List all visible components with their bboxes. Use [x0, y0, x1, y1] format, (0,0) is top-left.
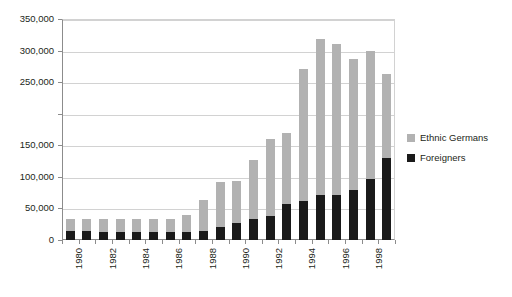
bar-group — [232, 19, 241, 240]
bar-group — [266, 19, 275, 240]
x-tick-mark — [129, 240, 130, 244]
y-tick-label: 50,000 — [25, 203, 54, 213]
bar-segment-foreigners — [199, 231, 208, 240]
bar-segment-foreigners — [116, 232, 125, 240]
bar-group — [216, 19, 225, 240]
bar-group — [149, 19, 158, 240]
bar-segment-ethnic-germans — [66, 219, 75, 232]
x-tick-mark — [362, 240, 363, 244]
x-tick-mark — [162, 240, 163, 244]
bar-segment-ethnic-germans — [249, 160, 258, 219]
x-tick-mark — [328, 240, 329, 244]
x-tick-mark — [295, 240, 296, 244]
bar-segment-foreigners — [282, 204, 291, 240]
x-tick-mark — [112, 240, 113, 244]
x-tick-mark — [95, 240, 96, 244]
x-tick-mark — [229, 240, 230, 244]
bar-segment-ethnic-germans — [182, 215, 191, 232]
x-tick-label: 1998 — [374, 248, 384, 269]
bar-group — [382, 19, 391, 240]
bar-segment-ethnic-germans — [132, 219, 141, 232]
bar-segment-foreigners — [382, 158, 391, 240]
bar-segment-ethnic-germans — [82, 219, 91, 231]
x-tick-label: 1986 — [174, 248, 184, 269]
bar-group — [299, 19, 308, 240]
bar-group — [166, 19, 175, 240]
bar-segment-ethnic-germans — [216, 182, 225, 227]
x-tick-label: 1982 — [108, 248, 118, 269]
x-tick-label: 1992 — [274, 248, 284, 269]
bar-segment-foreigners — [166, 232, 175, 240]
y-axis: 050,000100,000150,000250,000300,000350,0… — [0, 0, 62, 260]
bar-segment-foreigners — [99, 232, 108, 240]
bar-segment-ethnic-germans — [266, 139, 275, 216]
legend-item: Foreigners — [407, 152, 488, 163]
bar-segment-foreigners — [249, 219, 258, 240]
chart-legend: Ethnic GermansForeigners — [407, 132, 488, 172]
x-tick-mark — [212, 240, 213, 244]
x-tick-mark — [312, 240, 313, 244]
bar-group — [332, 19, 341, 240]
bar-group — [366, 19, 375, 240]
bar-segment-ethnic-germans — [316, 39, 325, 195]
legend-item: Ethnic Germans — [407, 132, 488, 143]
legend-swatch-foreigners — [407, 154, 415, 162]
bar-segment-foreigners — [266, 216, 275, 240]
bar-segment-foreigners — [299, 201, 308, 240]
bar-group — [199, 19, 208, 240]
x-tick-mark — [79, 240, 80, 244]
x-tick-mark — [278, 240, 279, 244]
x-tick-mark — [378, 240, 379, 244]
bar-segment-ethnic-germans — [382, 74, 391, 158]
bar-segment-ethnic-germans — [199, 200, 208, 231]
bar-segment-ethnic-germans — [332, 44, 341, 194]
bar-segment-foreigners — [366, 179, 375, 240]
x-axis: 1980198219841986198819901992199419961998 — [62, 240, 395, 297]
x-tick-label: 1980 — [74, 248, 84, 269]
x-tick-mark — [395, 240, 396, 244]
bar-segment-ethnic-germans — [149, 219, 158, 232]
y-tick-label: 150,000 — [20, 140, 54, 150]
bar-group — [349, 19, 358, 240]
bar-segment-foreigners — [149, 232, 158, 240]
bar-segment-foreigners — [182, 232, 191, 240]
y-tick-label: 250,000 — [20, 77, 54, 87]
bar-segment-foreigners — [349, 190, 358, 241]
x-tick-mark — [179, 240, 180, 244]
legend-label: Foreigners — [420, 152, 465, 163]
bar-segment-foreigners — [316, 195, 325, 240]
bar-segment-ethnic-germans — [232, 181, 241, 223]
bar-group — [116, 19, 125, 240]
bar-group — [82, 19, 91, 240]
bar-segment-ethnic-germans — [282, 133, 291, 204]
bar-group — [99, 19, 108, 240]
legend-label: Ethnic Germans — [420, 132, 488, 143]
y-tick-label: 100,000 — [20, 172, 54, 182]
x-tick-mark — [62, 240, 63, 244]
bar-segment-foreigners — [232, 223, 241, 240]
x-tick-mark — [195, 240, 196, 244]
bar-group — [132, 19, 141, 240]
bar-segment-ethnic-germans — [349, 59, 358, 189]
bar-segment-foreigners — [66, 231, 75, 240]
legend-swatch-ethnic-germans — [407, 134, 415, 142]
stacked-bar-chart: 050,000100,000150,000250,000300,000350,0… — [0, 0, 512, 297]
y-tick-label: 0 — [49, 235, 54, 245]
bars-layer — [62, 19, 395, 240]
x-tick-label: 1996 — [341, 248, 351, 269]
bar-group — [316, 19, 325, 240]
bar-segment-foreigners — [132, 232, 141, 240]
x-tick-label: 1990 — [241, 248, 251, 269]
x-tick-mark — [262, 240, 263, 244]
bar-segment-ethnic-germans — [166, 219, 175, 233]
x-tick-mark — [145, 240, 146, 244]
bar-segment-foreigners — [82, 231, 91, 240]
x-tick-mark — [245, 240, 246, 244]
x-tick-mark — [345, 240, 346, 244]
bar-group — [182, 19, 191, 240]
x-tick-label: 1988 — [208, 248, 218, 269]
bar-segment-ethnic-germans — [116, 219, 125, 232]
bar-segment-ethnic-germans — [366, 51, 375, 180]
x-tick-label: 1984 — [141, 248, 151, 269]
y-tick-label: 350,000 — [20, 14, 54, 24]
